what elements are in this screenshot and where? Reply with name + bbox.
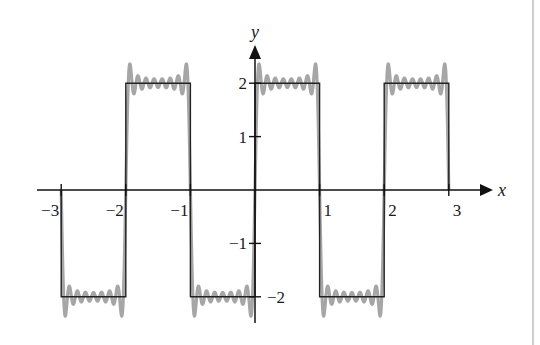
- y-axis-label: y: [249, 22, 259, 42]
- x-tick-label: −1: [170, 201, 188, 220]
- y-axis-arrow-icon: [249, 45, 261, 59]
- x-tick-label: −2: [106, 201, 124, 220]
- x-tick-label: 2: [388, 201, 397, 220]
- y-tick-label: −1: [229, 234, 247, 253]
- x-tick-label: 1: [324, 201, 333, 220]
- x-axis-label: x: [497, 180, 506, 200]
- x-tick-label: 3: [453, 201, 462, 220]
- y-tick-label: −2: [267, 288, 285, 307]
- x-axis: x −3−2−1123: [37, 180, 506, 220]
- chart-figure: x −3−2−1123 y 21−1−2: [0, 0, 540, 345]
- y-tick-label: 1: [239, 128, 248, 147]
- y-tick-label: 2: [239, 74, 248, 93]
- x-axis-arrow-icon: [480, 184, 493, 196]
- panel-separator: [532, 0, 534, 345]
- x-tick-label: −3: [41, 201, 59, 220]
